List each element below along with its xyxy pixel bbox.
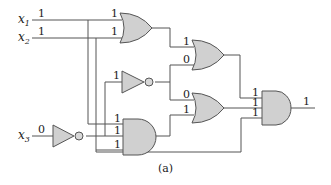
or2-input-a: 1: [183, 35, 190, 48]
logic-circuit: x1 x2 x3 1 1 0 1 1 1 1 0 0 1 1 1 1 1 1 1…: [0, 0, 331, 185]
or2-input-b: 0: [183, 53, 190, 66]
and1-input-b: 1: [114, 124, 121, 137]
not-gate-x3: [53, 125, 74, 147]
or3-input-b: 1: [183, 103, 190, 116]
or-gate-3: [192, 93, 224, 123]
and-gate-final: [262, 91, 291, 125]
x1-value: 1: [38, 7, 45, 20]
and-gate-1: [123, 119, 156, 155]
input-label-x3: x3: [18, 128, 30, 144]
and-final-input-c: 1: [252, 106, 259, 119]
or-gate-1: [120, 13, 152, 43]
wires: [32, 20, 315, 152]
not-bubble-x3: [75, 132, 83, 140]
output-value: 1: [303, 95, 310, 108]
input-label-x1: x1: [18, 12, 30, 28]
or1-input-b: 1: [111, 25, 118, 38]
not-gate-middle: [122, 71, 144, 93]
x3-value: 0: [38, 123, 45, 136]
x2-value: 1: [38, 25, 45, 38]
not-bubble-middle: [145, 78, 153, 86]
or-gate-2: [192, 40, 224, 70]
and1-input-c: 1: [114, 138, 121, 151]
input-label-x2: x2: [18, 30, 30, 46]
or3-input-a: 0: [183, 88, 190, 101]
or1-input-a: 1: [111, 7, 118, 20]
not-mid-input: 1: [113, 69, 120, 82]
figure-caption: (a): [158, 162, 173, 175]
